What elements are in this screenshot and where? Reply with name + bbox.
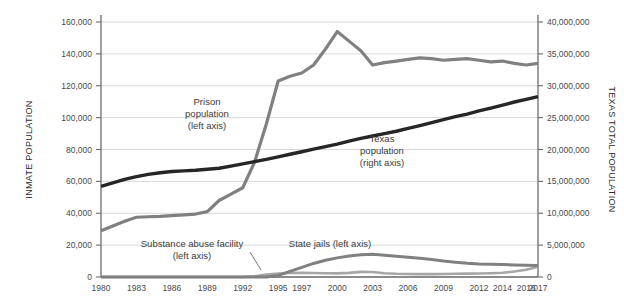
left-axis-tick-label: 120,000	[61, 81, 92, 91]
x-axis-tick-label: 1983	[127, 283, 146, 293]
x-axis-tick-label: 2017	[529, 283, 548, 293]
texas-population-annotation-line: population	[360, 145, 404, 156]
line-chart-svg: 020,00040,00060,00080,000100,000120,0001…	[0, 0, 624, 305]
substance-abuse-facility-annotation-line: (left axis)	[173, 250, 212, 261]
x-axis-tick-label: 1992	[233, 283, 252, 293]
x-axis-tick-label: 1989	[198, 283, 217, 293]
annotations: Prisonpopulation(left axis)Texaspopulati…	[141, 96, 404, 261]
prison-population-annotation-line: Prison	[194, 96, 221, 107]
x-axis-tick-label: 1997	[292, 283, 311, 293]
x-axis: 1980198319861989199219951997200020032006…	[92, 283, 548, 293]
series-line-substance-abuse-facility-left-axis	[101, 267, 538, 277]
x-axis-tick-label: 2012	[469, 283, 488, 293]
right-axis: 05,000,00010,000,00015,000,00020,000,000…	[538, 15, 590, 282]
left-axis-tick-label: 140,000	[61, 49, 92, 59]
x-axis-tick-label: 2003	[363, 283, 382, 293]
texas-population-annotation-line: Texas	[370, 133, 395, 144]
left-axis: 020,00040,00060,00080,000100,000120,0001…	[61, 15, 101, 282]
right-axis-tick-label: 10,000,000	[547, 208, 590, 218]
right-axis-tick-label: 30,000,000	[547, 81, 590, 91]
right-axis-tick-label: 0	[547, 272, 552, 282]
prison-population-annotation: Prisonpopulation(left axis)	[185, 96, 229, 131]
right-axis-tick-label: 35,000,000	[547, 49, 590, 59]
x-axis-tick-label: 1980	[92, 283, 111, 293]
left-axis-tick-label: 160,000	[61, 17, 92, 27]
right-axis-tick-label: 25,000,000	[547, 113, 590, 123]
state-jails-annotation: State jails (left axis)	[289, 238, 371, 249]
chart-container: 020,00040,00060,00080,000100,000120,0001…	[0, 0, 624, 305]
left-axis-tick-label: 40,000	[66, 208, 92, 218]
x-axis-tick-label: 2006	[399, 283, 418, 293]
series-line-prison-population-left-axis	[101, 32, 538, 231]
x-axis-tick-label: 1986	[162, 283, 181, 293]
left-axis-tick-label: 100,000	[61, 113, 92, 123]
substance-abuse-facility-annotation-line: Substance abuse facility	[141, 238, 244, 249]
prison-population-annotation-line: (left axis)	[188, 120, 227, 131]
texas-population-annotation-line: (right axis)	[360, 157, 404, 168]
left-axis-tick-label: 60,000	[66, 176, 92, 186]
prison-population-annotation-line: population	[185, 108, 229, 119]
left-axis-tick-label: 80,000	[66, 145, 92, 155]
state-jails-annotation-line: State jails (left axis)	[289, 238, 371, 249]
left-axis-title: INMATE POPULATION	[24, 100, 34, 198]
x-axis-tick-label: 2009	[434, 283, 453, 293]
x-axis-tick-label: 2000	[328, 283, 347, 293]
left-axis-tick-label: 20,000	[66, 240, 92, 250]
right-axis-tick-label: 5,000,000	[547, 240, 585, 250]
left-axis-tick-label: 0	[87, 272, 92, 282]
right-axis-tick-label: 15,000,000	[547, 176, 590, 186]
substance-abuse-facility-annotation: Substance abuse facility(left axis)	[141, 238, 244, 261]
x-axis-tick-label: 1995	[269, 283, 288, 293]
series-line-texas-population-right-axis	[101, 97, 538, 187]
right-axis-tick-label: 20,000,000	[547, 145, 590, 155]
right-axis-title: TEXAS TOTAL POPULATION	[607, 86, 617, 212]
x-axis-tick-label: 2014	[493, 283, 512, 293]
substance-abuse-leader-line	[250, 252, 261, 270]
right-axis-tick-label: 40,000,000	[547, 17, 590, 27]
